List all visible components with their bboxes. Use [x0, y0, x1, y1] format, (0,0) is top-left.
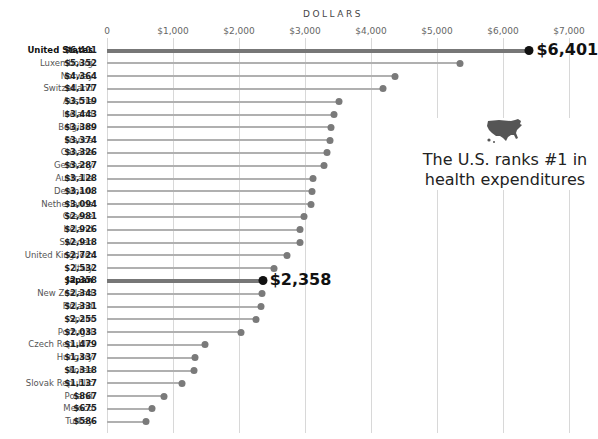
lollipop-dot: [326, 137, 333, 144]
lollipop-stem: [107, 331, 241, 333]
chart-row: Hungary$1,337: [0, 351, 590, 364]
value-label: $2,981: [59, 210, 97, 223]
value-label: $4,177: [59, 82, 97, 95]
value-label: $1,479: [59, 338, 97, 351]
lollipop-dot: [310, 175, 317, 182]
lollipop-dot: [161, 393, 168, 400]
x-tick-label: $4,000: [355, 26, 387, 36]
lollipop-stem: [107, 178, 313, 180]
chart-row: Portugal$2,033: [0, 326, 590, 339]
chart-row: Norway$4,364: [0, 70, 590, 83]
x-tick-label: $3,000: [289, 26, 321, 36]
value-label: $2,033: [59, 326, 97, 339]
lollipop-dot: [190, 367, 197, 374]
value-label: $3,374: [59, 134, 97, 147]
chart-row: Luxembourg$5,352: [0, 57, 590, 70]
value-label: $2,331: [59, 300, 97, 313]
value-label: $1,318: [59, 364, 97, 377]
lollipop-dot: [148, 405, 155, 412]
chart-row: Austria$3,519: [0, 95, 590, 108]
chart-row: Switzerland$4,177: [0, 82, 590, 95]
chart-row: Czech Republic$1,479: [0, 338, 590, 351]
x-tick-label: $1,000: [157, 26, 189, 36]
lollipop-dot: [320, 162, 327, 169]
lollipop-stem: [107, 62, 460, 64]
lollipop-dot: [296, 239, 303, 246]
x-tick-label: $7,000: [553, 26, 585, 36]
usa-map-icon: [485, 118, 525, 144]
lollipop-dot: [308, 201, 315, 208]
lollipop-dot: [252, 316, 259, 323]
lollipop-stem: [107, 139, 330, 141]
lollipop-dot: [258, 276, 267, 285]
lollipop-stem: [107, 88, 383, 90]
value-label: $3,287: [59, 159, 97, 172]
value-label: $3,128: [59, 172, 97, 185]
lollipop-dot: [331, 111, 338, 118]
lollipop-stem: [107, 114, 334, 116]
x-tick-label: $6,000: [487, 26, 519, 36]
lollipop-stem: [107, 49, 529, 53]
lollipop-stem: [107, 190, 312, 192]
lollipop-stem: [107, 75, 395, 77]
value-label: $1,337: [59, 351, 97, 364]
chart-row: Ireland$2,926: [0, 223, 590, 236]
chart-row: Slovak Republic$1,137: [0, 377, 590, 390]
lollipop-dot: [258, 290, 265, 297]
lollipop-dot: [327, 124, 334, 131]
chart-row: United States$6,401$6,401: [0, 44, 590, 57]
chart-row: Spain$2,255: [0, 313, 590, 326]
chart-row: Korea$1,318: [0, 364, 590, 377]
lollipop-stem: [107, 229, 300, 231]
value-label: $3,389: [59, 121, 97, 134]
value-label: $1,137: [59, 377, 97, 390]
annotation-line-1: The U.S. ranks #1 in: [420, 150, 590, 170]
value-callout: $6,401: [536, 42, 598, 58]
lollipop-stem: [107, 408, 152, 410]
annotation-line-2: health expenditures: [420, 170, 590, 190]
lollipop-stem: [107, 203, 311, 205]
value-label: $6,401: [59, 44, 97, 57]
chart-row: Netherlands$3,094: [0, 198, 590, 211]
chart-row: Greece$2,981: [0, 210, 590, 223]
x-tick-label: 0: [104, 26, 110, 36]
lollipop-stem: [107, 101, 339, 103]
value-label: $2,926: [59, 223, 97, 236]
annotation-box: The U.S. ranks #1 in health expenditures: [420, 118, 590, 190]
lollipop-stem: [107, 267, 274, 269]
chart-row: Japan$2,358$2,358: [0, 274, 590, 287]
value-label: $5,352: [59, 57, 97, 70]
lollipop-dot: [283, 252, 290, 259]
lollipop-dot: [297, 226, 304, 233]
value-label: $2,255: [59, 313, 97, 326]
value-callout: $2,358: [270, 272, 332, 288]
lollipop-dot: [192, 354, 199, 361]
lollipop-stem: [107, 357, 195, 359]
lollipop-stem: [107, 370, 194, 372]
lollipop-stem: [107, 279, 263, 283]
value-label: $586: [59, 415, 97, 428]
lollipop-stem: [107, 318, 256, 320]
lollipop-dot: [323, 149, 330, 156]
value-label: $4,364: [59, 70, 97, 83]
lollipop-dot: [336, 98, 343, 105]
chart-row: Poland$867: [0, 390, 590, 403]
lollipop-stem: [107, 382, 182, 384]
lollipop-dot: [525, 46, 534, 55]
lollipop-dot: [309, 188, 316, 195]
lollipop-dot: [379, 85, 386, 92]
value-label: $2,724: [59, 249, 97, 262]
chart-row: Sweden$2,918: [0, 236, 590, 249]
value-label: $3,326: [59, 146, 97, 159]
lollipop-dot: [238, 329, 245, 336]
value-label: $3,094: [59, 198, 97, 211]
lollipop-dot: [179, 380, 186, 387]
chart-row: Finland$2,331: [0, 300, 590, 313]
lollipop-stem: [107, 126, 331, 128]
lollipop-stem: [107, 344, 205, 346]
x-axis-title: DOLLARS: [303, 9, 363, 19]
value-label: $2,532: [59, 262, 97, 275]
value-label: $3,443: [59, 108, 97, 121]
value-label: $2,918: [59, 236, 97, 249]
lollipop-stem: [107, 395, 164, 397]
